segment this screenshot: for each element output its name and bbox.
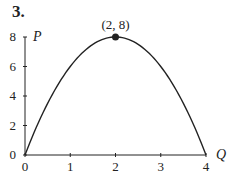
x-tick-label: 0 <box>22 159 29 174</box>
y-tick-label: 2 <box>10 118 17 133</box>
x-tick-label: 3 <box>158 159 165 174</box>
x-axis-label: Q <box>216 147 226 162</box>
x-tick-label: 4 <box>203 159 210 174</box>
y-axis-label: P <box>32 29 42 44</box>
vertex-label: (2, 8) <box>101 17 129 32</box>
y-tick-label: 8 <box>10 29 17 44</box>
y-tick-label: 4 <box>10 88 17 103</box>
parabola-chart: 0123402468QP(2, 8) <box>0 0 233 181</box>
y-tick-label: 0 <box>10 147 17 162</box>
curve-line <box>25 37 206 155</box>
y-tick-label: 6 <box>10 59 17 74</box>
vertex-point <box>112 34 119 41</box>
x-tick-label: 2 <box>112 159 119 174</box>
x-tick-label: 1 <box>67 159 74 174</box>
